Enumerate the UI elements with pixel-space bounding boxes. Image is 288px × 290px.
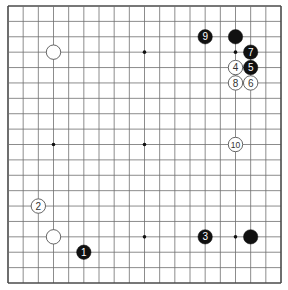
white-stone-move-6: 6 (243, 76, 257, 90)
black-stone (243, 230, 257, 244)
black-stone-icon (243, 230, 257, 244)
star-point (234, 50, 238, 54)
star-point (143, 143, 147, 147)
white-stone-move-2: 2 (31, 199, 45, 213)
move-number: 7 (248, 47, 254, 58)
black-stone-move-3: 3 (198, 230, 212, 244)
go-board: 97458610213 (0, 0, 288, 290)
go-board-diagram: 97458610213 (0, 0, 288, 290)
move-number: 1 (81, 247, 87, 258)
move-number: 10 (231, 140, 241, 150)
move-number: 6 (248, 78, 254, 89)
white-stone (46, 45, 60, 59)
star-point (143, 235, 147, 239)
black-stone-move-9: 9 (198, 30, 212, 44)
star-point (143, 50, 147, 54)
black-stone-move-5: 5 (243, 60, 257, 74)
white-stone-move-10: 10 (228, 137, 242, 151)
move-number: 9 (202, 31, 208, 42)
move-number: 3 (202, 231, 208, 242)
move-number: 4 (233, 62, 239, 73)
white-stone-move-8: 8 (228, 76, 242, 90)
white-stone-icon (46, 230, 60, 244)
star-point (52, 143, 56, 147)
black-stone (228, 30, 242, 44)
move-number: 5 (248, 62, 254, 73)
black-stone-move-1: 1 (77, 245, 91, 259)
black-stone-icon (228, 30, 242, 44)
white-stone-icon (46, 45, 60, 59)
move-number: 8 (233, 78, 239, 89)
white-stone-move-4: 4 (228, 60, 242, 74)
star-point (234, 235, 238, 239)
white-stone (46, 230, 60, 244)
black-stone-move-7: 7 (243, 45, 257, 59)
move-number: 2 (36, 201, 42, 212)
